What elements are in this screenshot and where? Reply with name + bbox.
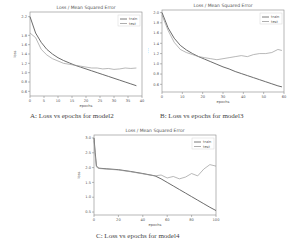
x-tick-label: 40 — [241, 95, 246, 99]
x-tick-label: 35 — [126, 99, 131, 103]
x-tick-label: 0 — [29, 99, 32, 103]
x-tick-label: 20 — [84, 99, 89, 103]
y-tick-label: 0.6 — [21, 90, 27, 94]
x-tick-label: 40 — [141, 218, 146, 222]
caption-c: C: Loss vs epochs for model4 — [96, 232, 179, 240]
y-tick-label: 3.0 — [85, 136, 91, 140]
y-tick-label: 1.2 — [21, 62, 27, 66]
caption-b: B: Loss vs epochs for model3 — [160, 112, 243, 120]
loss-chart-a: Loss / Mean Squared Error051015202530354… — [0, 0, 148, 112]
chart-title: Loss / Mean Squared Error — [125, 128, 184, 133]
y-tick-label: 0.8 — [21, 80, 27, 84]
chart-title: Loss / Mean Squared Error — [193, 3, 252, 8]
x-tick-label: 20 — [200, 95, 205, 99]
legend-label-test: test — [271, 20, 278, 24]
x-tick-label: 60 — [282, 95, 287, 99]
x-tick-label: 0 — [93, 218, 96, 222]
x-axis-label: epochs — [217, 100, 230, 104]
x-tick-label: 10 — [180, 95, 185, 99]
y-tick-label: 1.0 — [153, 62, 159, 66]
y-tick-label: 1.8 — [153, 21, 159, 25]
x-tick-label: 50 — [261, 95, 266, 99]
x-tick-label: 15 — [70, 99, 75, 103]
x-tick-label: 10 — [56, 99, 61, 103]
legend-label-test: test — [129, 22, 136, 26]
x-axis-label: epochs — [149, 223, 162, 227]
loss-chart-c: Loss / Mean Squared Error0204060801000.5… — [74, 125, 226, 233]
y-tick-label: 1.5 — [85, 181, 91, 185]
chart-title: Loss / Mean Squared Error — [56, 5, 115, 10]
figure-a: Loss / Mean Squared Error051015202530354… — [0, 0, 148, 112]
legend-label-train: train — [129, 17, 137, 21]
caption-a: A: Loss vs epochs for model2 — [30, 112, 114, 120]
x-tick-label: 20 — [116, 218, 121, 222]
y-axis-label: loss — [77, 171, 81, 178]
x-tick-label: 80 — [189, 218, 194, 222]
y-tick-label: 1.0 — [85, 195, 91, 199]
y-tick-label: 1.6 — [21, 43, 27, 47]
y-tick-label: 0.8 — [153, 72, 159, 76]
y-tick-label: 1.4 — [153, 42, 159, 46]
y-tick-label: 0.5 — [85, 210, 91, 214]
y-tick-label: 2.0 — [85, 166, 91, 170]
y-tick-label: 1.2 — [153, 52, 159, 56]
y-tick-label: 2.2 — [21, 15, 27, 19]
y-tick-label: 2.5 — [85, 151, 91, 155]
x-tick-label: 40 — [140, 99, 145, 103]
figure-b: Loss / Mean Squared Error01020304050600.… — [148, 0, 296, 112]
figure-c: Loss / Mean Squared Error0204060801000.5… — [74, 125, 226, 233]
legend-label-train: train — [203, 140, 211, 144]
x-tick-label: 30 — [221, 95, 226, 99]
legend-label-train: train — [271, 15, 279, 19]
x-tick-label: 0 — [161, 95, 164, 99]
x-tick-label: 100 — [213, 218, 221, 222]
y-tick-label: 1.4 — [21, 52, 27, 56]
x-tick-label: 5 — [43, 99, 45, 103]
y-tick-label: 1.0 — [21, 71, 27, 75]
y-tick-label: 2.0 — [153, 11, 159, 15]
y-axis-label: loss — [148, 47, 149, 54]
loss-chart-b: Loss / Mean Squared Error01020304050600.… — [148, 0, 296, 112]
y-tick-label: 1.6 — [153, 31, 159, 35]
x-axis-label: epochs — [80, 104, 93, 108]
legend-label-test: test — [203, 145, 210, 149]
x-tick-label: 30 — [112, 99, 117, 103]
y-tick-label: 1.8 — [21, 34, 27, 38]
x-tick-label: 60 — [165, 218, 170, 222]
y-axis-label: loss — [13, 50, 17, 57]
x-tick-label: 25 — [98, 99, 103, 103]
y-tick-label: 0.6 — [153, 83, 159, 87]
